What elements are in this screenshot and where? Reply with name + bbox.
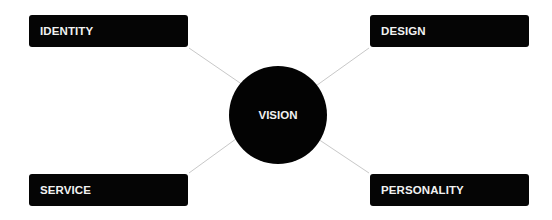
connector-service — [189, 136, 240, 173]
node-personality-label: PERSONALITY — [381, 184, 464, 196]
center-node-label: VISION — [259, 109, 298, 121]
node-design-label: DESIGN — [381, 25, 426, 37]
center-node-vision: VISION — [229, 66, 327, 164]
connector-design — [313, 48, 369, 88]
node-service: SERVICE — [29, 174, 188, 206]
node-identity-label: IDENTITY — [40, 25, 93, 37]
connector-personality — [315, 137, 369, 173]
node-design: DESIGN — [370, 15, 529, 47]
node-personality: PERSONALITY — [370, 174, 529, 206]
node-service-label: SERVICE — [40, 184, 91, 196]
connector-identity — [189, 48, 243, 85]
node-identity: IDENTITY — [29, 15, 188, 47]
